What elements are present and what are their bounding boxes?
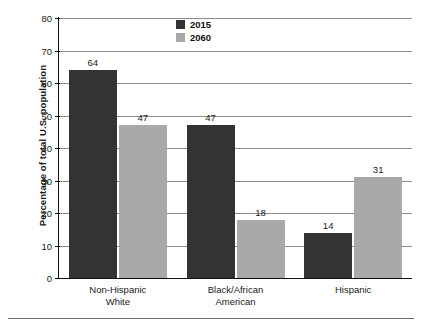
legend-label-2060: 2060 (190, 32, 211, 43)
y-tick-label-70: 70 (41, 45, 52, 56)
plot-area: 01020304050607080 644747181431 (59, 18, 412, 278)
legend-label-2015: 2015 (190, 19, 211, 30)
y-tick-label-10: 10 (41, 240, 52, 251)
y-tick-mark-0 (55, 278, 60, 279)
x-axis-label-line: Black/African (177, 284, 295, 296)
chart-legend: 2015 2060 (176, 19, 211, 43)
legend-item-2060: 2060 (176, 32, 211, 43)
y-tick-label-80: 80 (41, 13, 52, 24)
bar-2015-black-african-american: 47 (187, 125, 235, 278)
gridline-0: 0 (59, 278, 412, 279)
bar-value-label: 64 (88, 57, 99, 68)
bar-value-label: 14 (323, 220, 334, 231)
x-axis-label-non-hispanic-white: Non-HispanicWhite (59, 284, 177, 307)
bar-value-label: 47 (138, 112, 149, 123)
y-tick-label-60: 60 (41, 78, 52, 89)
y-tick-mark-20 (55, 213, 60, 214)
y-tick-label-0: 0 (47, 273, 52, 284)
x-axis-label-line: Non-Hispanic (59, 284, 177, 296)
legend-swatch-icon-2060 (176, 33, 185, 42)
y-tick-mark-40 (55, 148, 60, 149)
bar-2060-black-african-american: 18 (237, 220, 285, 279)
y-tick-label-50: 50 (41, 110, 52, 121)
y-tick-label-40: 40 (41, 143, 52, 154)
x-axis-label-line: Hispanic (294, 284, 412, 296)
bar-2060-non-hispanic-white: 47 (119, 125, 167, 278)
y-tick-mark-30 (55, 181, 60, 182)
x-axis-label-hispanic: Hispanic (294, 284, 412, 296)
x-axis-label-line: White (59, 296, 177, 308)
legend-item-2015: 2015 (176, 19, 211, 30)
bar-2015-non-hispanic-white: 64 (69, 70, 117, 278)
y-tick-mark-60 (55, 83, 60, 84)
y-tick-label-20: 20 (41, 208, 52, 219)
gridline-80: 80 (59, 18, 412, 19)
bar-2060-hispanic: 31 (354, 177, 402, 278)
bar-value-label: 31 (373, 164, 384, 175)
legend-swatch-icon-2015 (176, 20, 185, 29)
x-axis-label-line: American (177, 296, 295, 308)
bar-chart: Percentage of total U.S. population 0102… (0, 0, 422, 329)
y-tick-mark-50 (55, 116, 60, 117)
bar-value-label: 18 (255, 207, 266, 218)
gridline-70: 70 (59, 51, 412, 52)
bar-2015-hispanic: 14 (304, 233, 352, 279)
y-tick-label-30: 30 (41, 175, 52, 186)
y-tick-mark-70 (55, 51, 60, 52)
bottom-divider (8, 318, 414, 319)
x-axis-label-black-african-american: Black/AfricanAmerican (177, 284, 295, 307)
bar-value-label: 47 (205, 112, 216, 123)
y-tick-mark-10 (55, 246, 60, 247)
y-tick-mark-80 (55, 18, 60, 19)
